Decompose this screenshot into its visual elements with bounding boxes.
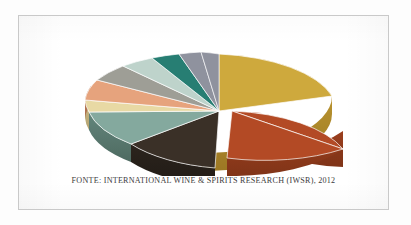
- figure-caption: FONTE: INTERNATIONAL WINE & SPIRITS RESE…: [19, 176, 388, 185]
- pie-chart-svg: [19, 16, 389, 176]
- figure-card: FONTE: INTERNATIONAL WINE & SPIRITS RESE…: [18, 15, 389, 210]
- pie-chart: [19, 16, 389, 176]
- scan-overlay: [19, 16, 389, 176]
- screenshot-root: FONTE: INTERNATIONAL WINE & SPIRITS RESE…: [0, 0, 411, 225]
